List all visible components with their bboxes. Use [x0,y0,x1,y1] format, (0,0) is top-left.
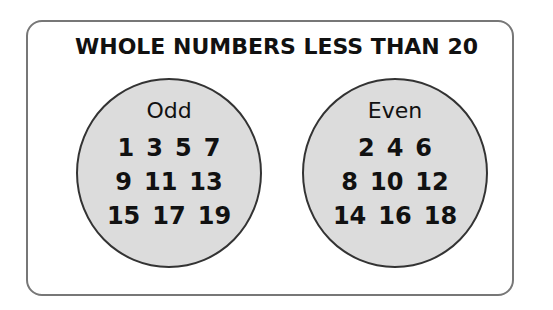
number: 12 [415,168,448,196]
number: 15 [107,202,140,230]
number: 14 [333,202,366,230]
odd-set-label: Odd [78,98,260,123]
odd-row-1: 1357 [78,134,260,162]
odd-set-circle: Odd 1357 91113 151719 [76,78,262,268]
number: 6 [415,134,432,162]
number: 17 [152,202,185,230]
even-row-1: 246 [304,134,486,162]
number: 4 [387,134,404,162]
odd-row-2: 91113 [78,168,260,196]
even-row-3: 141618 [304,202,486,230]
number: 16 [378,202,411,230]
even-row-2: 81012 [304,168,486,196]
number: 5 [175,134,192,162]
number: 19 [198,202,231,230]
number: 8 [341,168,358,196]
diagram-title: WHOLE NUMBERS LESS THAN 20 [0,34,553,59]
number: 3 [146,134,163,162]
odd-row-3: 151719 [78,202,260,230]
number: 2 [358,134,375,162]
number: 9 [115,168,132,196]
number: 7 [204,134,221,162]
number: 1 [118,134,135,162]
even-set-circle: Even 246 81012 141618 [302,78,488,268]
number: 18 [424,202,457,230]
even-set-label: Even [304,98,486,123]
number: 13 [189,168,222,196]
number: 11 [144,168,177,196]
number: 10 [370,168,403,196]
